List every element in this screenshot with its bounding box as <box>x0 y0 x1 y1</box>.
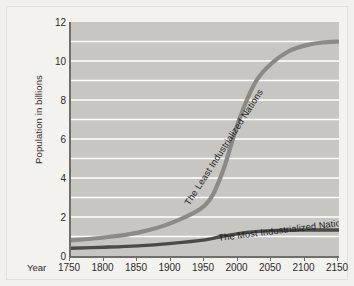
x-tick-mark <box>270 256 271 261</box>
chart-curves <box>71 22 339 256</box>
x-tick-mark <box>237 256 238 261</box>
x-tick-mark <box>136 256 137 261</box>
x-tick-mark <box>203 256 204 261</box>
x-tick-mark <box>103 256 104 261</box>
x-tick-label: 2050 <box>259 262 281 273</box>
x-tick-mark <box>170 256 171 261</box>
y-tick-label: 10 <box>42 56 66 67</box>
x-tick-label: 1950 <box>192 262 214 273</box>
x-axis-tick-labels: 175018001850190019502000205021002150 <box>6 262 354 278</box>
y-axis-tick-labels: 024681012 <box>42 22 66 256</box>
y-tick-label: 4 <box>42 173 66 184</box>
x-tick-mark <box>69 256 70 261</box>
y-tick-label: 6 <box>42 134 66 145</box>
x-tick-label: 2000 <box>225 262 247 273</box>
x-tick-label: 2150 <box>326 262 348 273</box>
x-tick-label: 1750 <box>58 262 80 273</box>
x-tick-label: 1800 <box>91 262 113 273</box>
y-tick-label: 12 <box>42 17 66 28</box>
x-axis-label: Year <box>27 262 46 273</box>
plot-area: The Least Industrialized Nations The Mos… <box>69 22 339 258</box>
chart-figure: Population in billions 024681012 The Lea… <box>0 0 354 286</box>
x-tick-label: 2100 <box>292 262 314 273</box>
x-tick-mark <box>337 256 338 261</box>
y-tick-label: 2 <box>42 212 66 223</box>
x-tick-mark <box>304 256 305 261</box>
series-line <box>71 42 339 241</box>
y-tick-label: 0 <box>42 251 66 262</box>
y-tick-label: 8 <box>42 95 66 106</box>
x-tick-label: 1850 <box>125 262 147 273</box>
figure-frame: Population in billions 024681012 The Lea… <box>6 6 348 280</box>
x-tick-label: 1900 <box>158 262 180 273</box>
